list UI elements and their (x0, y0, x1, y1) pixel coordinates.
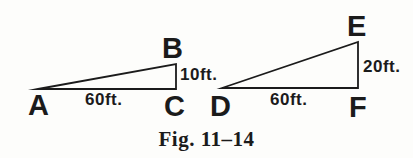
triangle-abc-shape (38, 64, 176, 89)
vertex-label-c: C (164, 92, 185, 121)
vertex-label-d: D (210, 92, 231, 121)
height-measurement-left: 10ft. (180, 66, 217, 83)
base-measurement-right: 60ft. (270, 91, 307, 108)
base-measurement-left: 60ft. (85, 91, 122, 108)
vertex-label-e: E (347, 12, 366, 41)
triangle-def-shape (222, 42, 358, 88)
vertex-label-b: B (162, 34, 183, 63)
figure-11-14: A B C 60ft. 10ft. D E F 60ft. 20ft. Fig.… (0, 0, 413, 158)
figure-caption: Fig. 11–14 (0, 127, 413, 152)
height-measurement-right: 20ft. (363, 58, 400, 75)
vertex-label-f: F (349, 93, 367, 122)
vertex-label-a: A (28, 91, 49, 120)
